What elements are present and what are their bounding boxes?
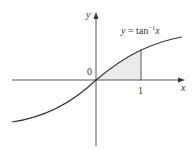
origin-label: 0	[87, 66, 92, 77]
arctan-chart: y x 0 1 y = tan−1x	[0, 0, 193, 151]
x-tick-label-1: 1	[138, 85, 143, 96]
x-axis-label: x	[180, 82, 186, 93]
function-label-x: x	[154, 25, 160, 36]
shaded-region	[96, 50, 141, 80]
arctan-curve	[12, 37, 182, 122]
y-axis-arrow-icon	[94, 12, 99, 19]
y-axis-label: y	[85, 9, 91, 20]
function-label: y = tan−1x	[120, 24, 160, 36]
function-label-sup: −1	[148, 24, 155, 31]
function-label-eq: = tan	[125, 25, 148, 36]
